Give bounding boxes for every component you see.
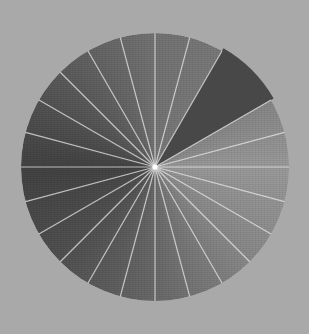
radial-divider-line [155,167,190,296]
radial-divider-line [88,167,155,283]
radial-divider-line [26,167,155,202]
radial-divider-line [39,167,155,234]
radial-divider-line [26,132,155,167]
highlight-wedge [155,48,274,167]
center-dot [153,165,158,170]
radial-divider-line [155,167,222,283]
stimulus-canvas: Gray disc divided into radial wedges wit… [0,0,309,334]
radial-divider-line [120,167,155,296]
disc-overlay [0,0,309,334]
radial-divider-line [155,167,271,234]
radial-divider-line [60,167,155,262]
radial-divider-line [155,167,284,202]
radial-divider-line [155,167,250,262]
radial-divider-line [88,51,155,167]
radial-divider-line [39,100,155,167]
radial-divider-line [120,38,155,167]
radial-divider-line [60,72,155,167]
